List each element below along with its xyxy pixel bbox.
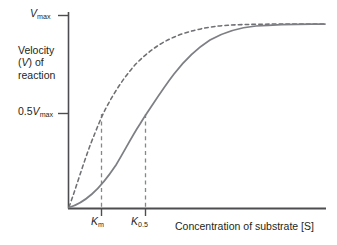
- y-axis-title-line-2: (V) of: [18, 56, 55, 68]
- km-symbol: K: [91, 215, 98, 227]
- half-vmax-symbol: V: [33, 105, 40, 117]
- half-vmax-subscript: max: [40, 111, 53, 119]
- y-tick-label-half-vmax: 0.5Vmax: [18, 105, 53, 117]
- x-tick-label-k05: K0.5: [131, 215, 148, 227]
- y-axis-title-line-3: reaction: [18, 69, 55, 81]
- half-vmax-prefix: 0.5: [18, 105, 33, 117]
- k05-subscript: 0.5: [138, 221, 148, 229]
- k05-symbol: K: [131, 215, 138, 227]
- y-axis-title-paren-close: ) of: [29, 56, 44, 68]
- michaelis-menten-curve: [69, 24, 325, 207]
- allosteric-sigmoid-curve: [69, 24, 325, 207]
- vmax-symbol: V: [30, 7, 37, 19]
- vmax-subscript: max: [37, 13, 50, 21]
- enzyme-kinetics-chart: Vmax 0.5Vmax Velocity (V) of reaction Km…: [0, 0, 337, 245]
- y-tick-label-vmax: Vmax: [30, 7, 50, 19]
- y-axis-title: Velocity (V) of reaction: [18, 44, 55, 81]
- km-subscript: m: [98, 221, 104, 229]
- velocity-symbol: V: [22, 56, 29, 68]
- x-tick-label-km: Km: [91, 215, 104, 227]
- chart-plot-area: [0, 0, 337, 245]
- y-axis-title-line-1: Velocity: [18, 44, 55, 56]
- x-axis-title: Concentration of substrate [S]: [175, 220, 314, 232]
